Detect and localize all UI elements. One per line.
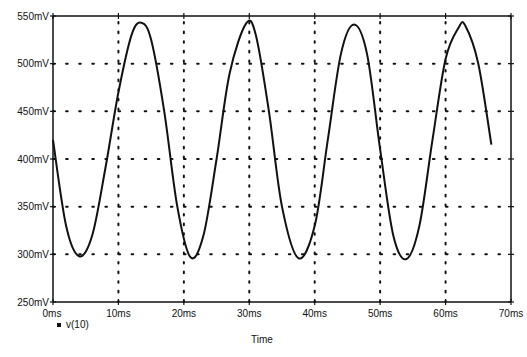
y-tick-label: 450mV xyxy=(17,106,49,117)
y-tick-label: 500mV xyxy=(17,58,49,69)
x-axis-label: Time xyxy=(251,334,273,345)
y-tick-label: 300mV xyxy=(17,249,49,260)
y-tick-label: 550mV xyxy=(17,11,49,22)
y-axis-ticks: 250mV300mV350mV400mV450mV500mV550mV xyxy=(17,11,49,308)
x-tick-label: 40ms xyxy=(302,308,326,319)
x-tick-label: 20ms xyxy=(172,308,196,319)
x-tick-label: 0ms xyxy=(43,308,62,319)
legend-label: v(10) xyxy=(66,319,89,330)
x-tick-label: 30ms xyxy=(237,308,261,319)
line-chart: 250mV300mV350mV400mV450mV500mV550mV 0ms1… xyxy=(0,0,527,357)
y-tick-label: 250mV xyxy=(17,297,49,308)
x-tick-label: 10ms xyxy=(106,308,130,319)
grid-lines xyxy=(53,22,511,302)
x-tick-label: 60ms xyxy=(433,308,457,319)
y-tick-label: 400mV xyxy=(17,154,49,165)
x-axis-ticks: 0ms10ms20ms30ms40ms50ms60ms70ms xyxy=(43,308,524,319)
x-tick-label: 50ms xyxy=(368,308,392,319)
legend-marker-square xyxy=(57,323,61,327)
x-tick-label: 70ms xyxy=(499,308,523,319)
y-tick-label: 350mV xyxy=(17,201,49,212)
